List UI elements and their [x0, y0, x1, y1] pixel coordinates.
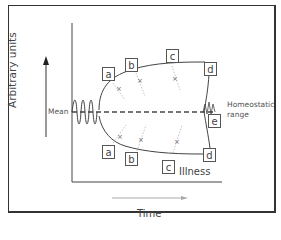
- upper-box-a: a: [102, 67, 115, 81]
- illness-label: Illness: [179, 166, 210, 177]
- lower-box-a: a: [102, 145, 115, 159]
- lower-curve: [99, 116, 208, 154]
- upper-box-c: c: [166, 49, 179, 63]
- svg-text:×: ×: [138, 136, 144, 144]
- homeostatic-label: Homeostatic range: [227, 100, 274, 120]
- svg-text:×: ×: [174, 138, 180, 146]
- up-arrow-icon: [43, 56, 49, 65]
- svg-text:×: ×: [172, 75, 178, 83]
- time-arrow-icon: [181, 196, 188, 200]
- upper-box-b: b: [125, 58, 138, 72]
- lower-box-c: c: [162, 160, 175, 174]
- mean-label: Mean: [48, 107, 68, 116]
- svg-text:×: ×: [137, 77, 143, 85]
- right-box-e: e: [208, 114, 221, 128]
- svg-text:×: ×: [117, 133, 123, 141]
- lower-box-d: d: [203, 148, 216, 162]
- y-axis-label: Arbitrary units: [6, 32, 18, 108]
- homeostatic-line1: Homeostatic: [227, 100, 274, 109]
- homeostatic-line2: range: [227, 110, 249, 119]
- time-label: Time: [137, 208, 161, 219]
- svg-text:×: ×: [116, 85, 122, 93]
- upper-box-d: d: [204, 62, 217, 76]
- lower-box-b: b: [125, 152, 138, 166]
